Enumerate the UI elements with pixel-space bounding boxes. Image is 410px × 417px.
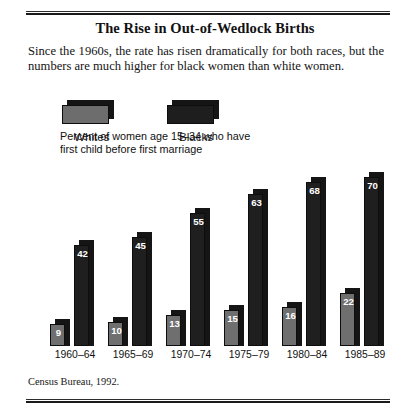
bar-value-label: 45 [133, 241, 148, 251]
bar-face: 22 [340, 293, 355, 346]
bar-whites: 13 [166, 160, 186, 346]
bar-group: 2270 [336, 160, 394, 346]
bar-group: 1563 [220, 160, 278, 346]
chart-caption: Percent of women age 15–34 who have firs… [60, 130, 250, 155]
bar-whites: 10 [108, 160, 128, 346]
bottom-rule [26, 399, 390, 403]
bar-value-label: 63 [249, 198, 264, 208]
figure-title: The Rise in Out-of-Wedlock Births [0, 20, 410, 37]
bar-group: 1355 [162, 160, 220, 346]
bar-face: 55 [190, 213, 205, 346]
legend-item-blacks: Blacks [167, 100, 219, 124]
bar-blacks: 68 [306, 160, 326, 346]
bar-value-label: 9 [51, 328, 66, 338]
legend-swatch-whites [62, 100, 114, 124]
bar-face: 16 [282, 307, 297, 346]
bar-chart-plot: 94210451355156316682270 [46, 160, 394, 346]
bar-face: 63 [248, 194, 263, 346]
bar-face: 45 [132, 237, 147, 346]
legend-swatch-blacks [167, 100, 219, 124]
bar-blacks: 45 [132, 160, 152, 346]
legend-item-whites: Whites [62, 100, 114, 124]
bar-value-label: 22 [341, 297, 356, 307]
bar-value-label: 68 [307, 186, 322, 196]
bar-whites: 9 [50, 160, 70, 346]
x-axis-tick: 1960–64 [46, 349, 104, 360]
bar-whites: 15 [224, 160, 244, 346]
bar-value-label: 10 [109, 326, 124, 336]
bar-group: 1668 [278, 160, 336, 346]
bar-blacks: 42 [74, 160, 94, 346]
bar-whites: 22 [340, 160, 360, 346]
figure-subtitle: Since the 1960s, the rate has risen dram… [28, 44, 384, 75]
bar-whites: 16 [282, 160, 302, 346]
x-axis-tick: 1985–89 [336, 349, 394, 360]
bar-blacks: 55 [190, 160, 210, 346]
legend-swatch-face [62, 105, 109, 124]
legend-swatch-face [167, 105, 214, 124]
bar-face: 10 [108, 322, 123, 346]
bar-value-label: 42 [75, 249, 90, 259]
bar-value-label: 15 [225, 314, 240, 324]
bar-value-label: 13 [167, 319, 182, 329]
top-rule [26, 11, 390, 15]
bar-group: 942 [46, 160, 104, 346]
x-axis-tick: 1975–79 [220, 349, 278, 360]
bar-group: 1045 [104, 160, 162, 346]
bar-value-label: 16 [283, 311, 298, 321]
x-axis-tick: 1980–84 [278, 349, 336, 360]
bar-blacks: 70 [364, 160, 384, 346]
bar-value-label: 70 [365, 181, 380, 191]
bar-face: 70 [364, 177, 379, 346]
figure-panel: The Rise in Out-of-Wedlock Births Since … [0, 0, 410, 417]
bar-face: 68 [306, 182, 321, 346]
bar-blacks: 63 [248, 160, 268, 346]
bar-value-label: 55 [191, 217, 206, 227]
x-axis-tick: 1965–69 [104, 349, 162, 360]
bar-face: 13 [166, 315, 181, 346]
bar-face: 9 [50, 324, 65, 346]
top-rule-thick [26, 13, 390, 15]
x-axis-tick: 1970–74 [162, 349, 220, 360]
bottom-rule-thick [26, 401, 390, 403]
bar-face: 15 [224, 310, 239, 346]
x-axis-labels: 1960–641965–691970–741975–791980–841985–… [46, 349, 394, 365]
bar-face: 42 [74, 245, 89, 346]
source-note: Census Bureau, 1992. [28, 376, 119, 387]
